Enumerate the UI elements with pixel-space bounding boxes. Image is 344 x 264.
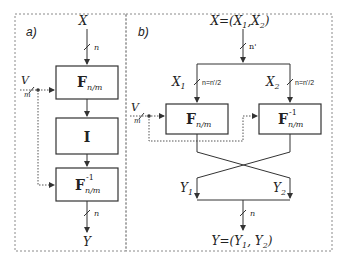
panel-b-right-branch-width: n=n'/2: [295, 79, 314, 86]
block-diagram: a) X n F n/m I F -1 n/m n Y V m: [0, 0, 344, 264]
f-block-name: F: [77, 74, 87, 90]
finv-block-superscript: -1: [289, 108, 297, 117]
finv-block-subscript: n/m: [85, 186, 101, 195]
panel-a-label: a): [26, 25, 37, 39]
finv-block-name: F: [75, 177, 85, 193]
panel-b-f-block: [166, 104, 228, 134]
finv-block-superscript: -1: [86, 173, 94, 182]
finv-block-subscript: n/m: [288, 120, 304, 129]
panel-b: b) X=(X1,X2) n' X1 n=n'/2 X2 n=n'/2 F n/…: [130, 14, 321, 250]
panel-b-side-input-label: V: [131, 101, 140, 114]
finv-block-name: F: [278, 111, 288, 127]
panel-b-bus-out-width: n: [250, 209, 255, 218]
panel-b-right-branch-label: X2: [265, 75, 280, 91]
panel-a-bus-out-width: n: [94, 209, 99, 218]
identity-block-name: I: [84, 129, 91, 145]
panel-a: a) X n F n/m I F -1 n/m n Y V m: [20, 14, 118, 249]
panel-b-left-branch-label: X1: [171, 75, 186, 91]
panel-b-out-left-label: Y1: [180, 181, 193, 197]
f-block-name: F: [186, 111, 196, 127]
panel-b-left-branch-width: n=n'/2: [202, 79, 221, 86]
panel-a-input-label: X: [78, 14, 88, 28]
panel-b-label: b): [138, 25, 149, 39]
panel-b-input-label: X=(X1,X2): [209, 14, 269, 30]
f-block-subscript: n/m: [196, 120, 212, 129]
panel-a-side-input-label: V: [21, 74, 30, 87]
panel-b-bus-in-width: n': [249, 42, 256, 51]
panel-a-side-wire-to-finv: [38, 90, 54, 185]
panel-a-output-label: Y: [83, 235, 92, 249]
f-block-subscript: n/m: [87, 83, 103, 92]
panel-b-output-label: Y=(Y1, Y2): [211, 234, 272, 250]
panel-a-bus-in-width: n: [94, 43, 99, 52]
panel-b-out-right-label: Y2: [273, 181, 286, 197]
